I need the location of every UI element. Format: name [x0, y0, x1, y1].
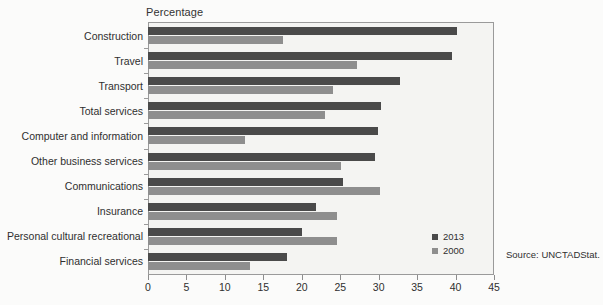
- x-axis-tick-label: 25: [334, 281, 346, 293]
- bar-2013: [148, 153, 375, 161]
- bar-group: [148, 149, 494, 174]
- figure-container: Percentage 2013 2000 Source: UNCTADStat.…: [0, 0, 603, 305]
- x-axis-tick: [148, 275, 149, 280]
- bar-2013: [148, 228, 302, 236]
- category-label: Financial services: [0, 255, 143, 267]
- category-label: Transport: [0, 80, 143, 92]
- category-label: Travel: [0, 55, 143, 67]
- category-axis-tick: [144, 249, 148, 250]
- bar-2013: [148, 77, 400, 85]
- bar-group: [148, 98, 494, 123]
- category-label: Total services: [0, 105, 143, 117]
- x-axis-tick-label: 5: [184, 281, 190, 293]
- x-axis-tick: [263, 275, 264, 280]
- category-axis-tick: [144, 73, 148, 74]
- x-axis-tick: [302, 275, 303, 280]
- category-label: Insurance: [0, 205, 143, 217]
- bar-2013: [148, 203, 316, 211]
- category-axis-tick: [144, 224, 148, 225]
- bar-2000: [148, 262, 250, 270]
- bar-2013: [148, 102, 381, 110]
- x-axis-tick: [417, 275, 418, 280]
- x-axis-tick: [186, 275, 187, 280]
- x-axis-tick-label: 35: [411, 281, 423, 293]
- legend-item-2013: 2013: [432, 231, 464, 242]
- bar-2013: [148, 27, 457, 35]
- category-axis-tick: [144, 174, 148, 175]
- x-axis-tick: [340, 275, 341, 280]
- bar-group: [148, 23, 494, 48]
- bar-2000: [148, 36, 283, 44]
- source-note: Source: UNCTADStat.: [506, 249, 600, 260]
- legend-swatch-2013-icon: [432, 234, 438, 240]
- x-axis-tick: [225, 275, 226, 280]
- x-axis-tick-label: 10: [219, 281, 231, 293]
- category-label: Construction: [0, 30, 143, 42]
- category-axis-tick: [144, 123, 148, 124]
- bar-2013: [148, 253, 287, 261]
- axis-title: Percentage: [146, 6, 203, 18]
- x-axis-tick-label: 45: [488, 281, 500, 293]
- category-label: Computer and information: [0, 130, 143, 142]
- bar-2000: [148, 86, 333, 94]
- legend-label-2013: 2013: [443, 231, 464, 242]
- bar-2000: [148, 237, 337, 245]
- bar-2000: [148, 136, 245, 144]
- bar-group: [148, 174, 494, 199]
- category-label: Communications: [0, 180, 143, 192]
- bar-2000: [148, 162, 341, 170]
- legend-swatch-2000-icon: [432, 248, 438, 254]
- legend-item-2000: 2000: [432, 245, 464, 256]
- category-axis-tick: [144, 48, 148, 49]
- category-axis-tick: [144, 199, 148, 200]
- bar-group: [148, 123, 494, 148]
- x-axis-tick-label: 20: [296, 281, 308, 293]
- x-axis-tick: [494, 275, 495, 280]
- bar-2000: [148, 61, 357, 69]
- x-axis-tick-label: 15: [257, 281, 269, 293]
- x-axis-tick-label: 40: [450, 281, 462, 293]
- bar-2000: [148, 187, 380, 195]
- bar-2013: [148, 52, 452, 60]
- bar-2013: [148, 178, 343, 186]
- category-label: Personal cultural recreational: [0, 230, 143, 242]
- bar-2000: [148, 212, 337, 220]
- bar-group: [148, 73, 494, 98]
- category-label: Other business services: [0, 155, 143, 167]
- chart-legend: 2013 2000: [432, 231, 464, 259]
- legend-label-2000: 2000: [443, 245, 464, 256]
- category-axis-tick: [144, 149, 148, 150]
- bar-2013: [148, 127, 378, 135]
- category-axis-tick: [144, 98, 148, 99]
- bar-group: [148, 199, 494, 224]
- bar-2000: [148, 111, 325, 119]
- x-axis-tick: [456, 275, 457, 280]
- x-axis-tick: [379, 275, 380, 280]
- bar-group: [148, 48, 494, 73]
- x-axis-tick-label: 30: [373, 281, 385, 293]
- x-axis-tick-label: 0: [145, 281, 151, 293]
